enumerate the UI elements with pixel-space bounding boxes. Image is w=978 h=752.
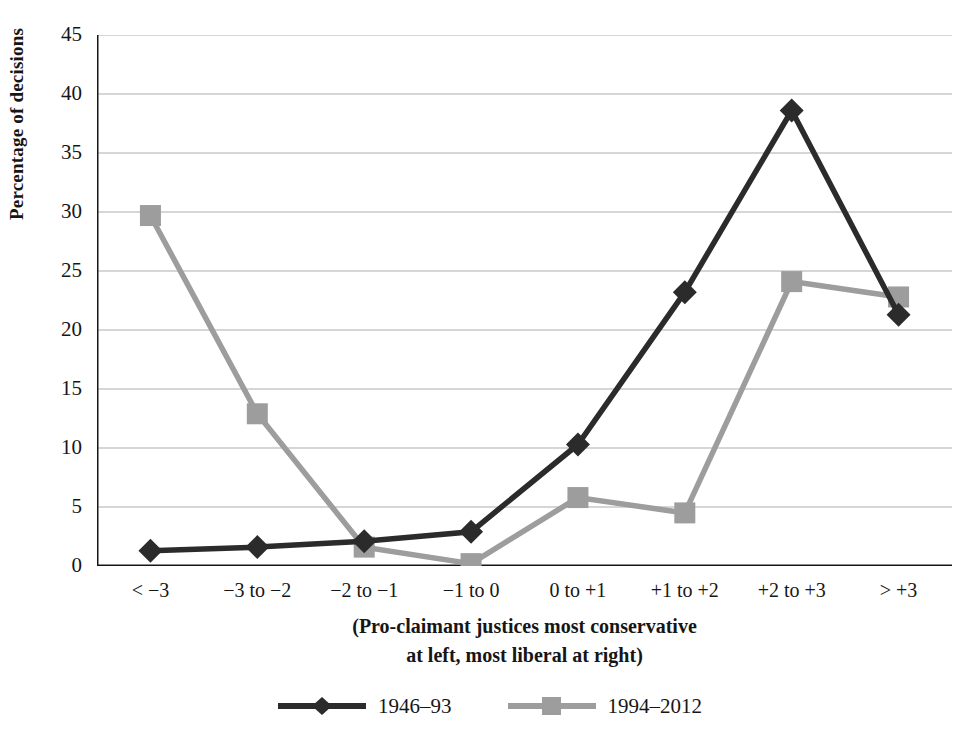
data-point-marker xyxy=(247,403,268,424)
diamond-marker-icon xyxy=(276,695,368,717)
x-tick-label: 0 to +1 xyxy=(525,578,632,602)
chart-legend: 1946–93 1994–2012 xyxy=(0,695,978,717)
y-tick-label: 30 xyxy=(38,201,82,222)
y-tick-label: 40 xyxy=(38,83,82,104)
x-tick-label: +2 to +3 xyxy=(738,578,845,602)
x-axis-caption-line-2: at left, most liberal at right) xyxy=(97,641,952,670)
y-axis-title: Percentage of decisions xyxy=(6,0,28,220)
data-point-marker xyxy=(780,99,804,123)
x-axis-caption-line-1: (Pro-claimant justices most conservative xyxy=(97,612,952,641)
data-point-marker xyxy=(461,553,482,566)
x-tick-label: −1 to 0 xyxy=(418,578,525,602)
square-marker-icon xyxy=(506,695,598,717)
y-tick-label: 20 xyxy=(38,319,82,340)
x-axis-caption: (Pro-claimant justices most conservative… xyxy=(97,612,952,670)
x-tick-label: < −3 xyxy=(97,578,204,602)
y-tick-label: 45 xyxy=(38,24,82,45)
y-tick-label: 10 xyxy=(38,437,82,458)
plot-area xyxy=(97,35,952,566)
data-point-marker xyxy=(674,502,695,523)
x-tick-label: +1 to +2 xyxy=(631,578,738,602)
line-chart: Percentage of decisions 4540353025201510… xyxy=(0,0,978,752)
y-tick-label: 35 xyxy=(38,142,82,163)
y-tick-label: 25 xyxy=(38,260,82,281)
x-tick-label: > +3 xyxy=(845,578,952,602)
legend-label-series-2: 1994–2012 xyxy=(608,696,703,717)
data-point-marker xyxy=(138,539,162,563)
x-tick-label: −2 to −1 xyxy=(311,578,418,602)
legend-item-series-1: 1946–93 xyxy=(276,695,452,717)
data-point-marker xyxy=(781,271,802,292)
x-axis-tick-labels: < −3−3 to −2−2 to −1−1 to 00 to +1+1 to … xyxy=(97,578,952,610)
legend-item-series-2: 1994–2012 xyxy=(506,695,703,717)
y-tick-label: 0 xyxy=(38,555,82,576)
legend-label-series-1: 1946–93 xyxy=(378,696,452,717)
data-point-marker xyxy=(140,205,161,226)
data-point-marker xyxy=(245,535,269,559)
y-axis-tick-labels: 454035302520151050 xyxy=(30,0,82,752)
x-tick-label: −3 to −2 xyxy=(204,578,311,602)
data-point-marker xyxy=(567,487,588,508)
plot-canvas xyxy=(97,35,952,566)
y-tick-label: 5 xyxy=(38,496,82,517)
y-tick-label: 15 xyxy=(38,378,82,399)
